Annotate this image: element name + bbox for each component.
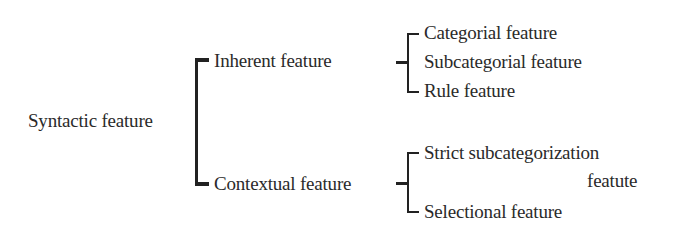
inherent-bracket-bottom-tick <box>407 91 419 93</box>
leaf-selectional: Selectional feature <box>424 201 562 223</box>
inherent-bracket-vertical <box>407 33 409 93</box>
leaf-strict-subcategorization-cont: featute <box>587 170 637 192</box>
root-node: Syntactic feature <box>28 110 153 132</box>
leaf-categorial: Categorial feature <box>424 22 557 44</box>
contextual-bracket-top-tick <box>407 152 419 154</box>
inherent-bracket-top-tick <box>407 33 419 35</box>
contextual-bracket-vertical <box>407 152 409 213</box>
leaf-rule: Rule feature <box>424 80 515 102</box>
contextual-bracket-bottom-tick <box>407 211 419 213</box>
leaf-strict-subcategorization: Strict subcategorization <box>424 142 599 164</box>
root-bracket-vertical <box>195 59 198 186</box>
root-bracket-top-tick <box>195 58 209 62</box>
root-bracket-bottom-tick <box>195 182 209 186</box>
branch-contextual: Contextual feature <box>214 173 351 195</box>
branch-inherent: Inherent feature <box>214 50 332 72</box>
leaf-subcategorial: Subcategorial feature <box>424 51 582 73</box>
